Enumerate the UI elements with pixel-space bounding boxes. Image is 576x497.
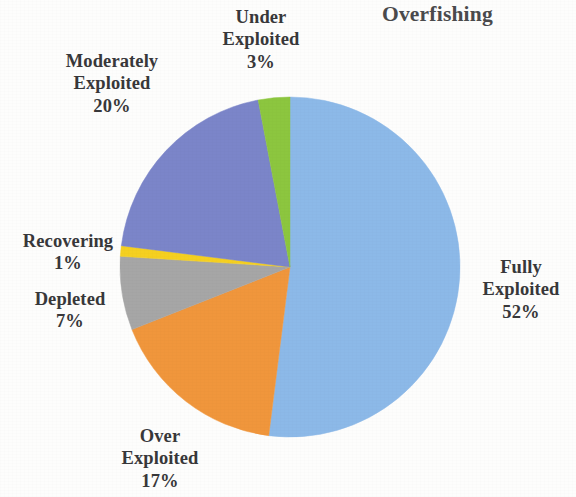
- pie-chart-svg: [118, 95, 462, 439]
- slice-label-line-2: Exploited: [90, 447, 230, 469]
- slice-label-line-1: Fully: [468, 256, 574, 278]
- slice-label-line-1: Under: [198, 6, 324, 28]
- slice-label-percent: 7%: [14, 310, 126, 332]
- slice-label-line-1: Moderately: [26, 50, 198, 72]
- slice-label-line-2: Exploited: [26, 72, 198, 94]
- slice-label-percent: 3%: [198, 51, 324, 73]
- slice-label-percent: 20%: [26, 95, 198, 117]
- slice-label-recovering: Recovering 1%: [2, 230, 134, 275]
- pie-slice-fully-exploited: [269, 97, 460, 437]
- slice-label-line-2: Exploited: [198, 28, 324, 50]
- slice-label-percent: 1%: [2, 252, 134, 274]
- slice-label-under-exploited: Under Exploited 3%: [198, 6, 324, 73]
- slice-label-depleted: Depleted 7%: [14, 288, 126, 333]
- slice-label-line-1: Recovering: [2, 230, 134, 252]
- slice-label-over-exploited: Over Exploited 17%: [90, 425, 230, 492]
- pie-chart: [118, 95, 462, 439]
- slice-label-percent: 17%: [90, 470, 230, 492]
- pie-slice-group: [120, 97, 460, 437]
- slice-label-percent: 52%: [468, 301, 574, 323]
- slice-label-line-1: Depleted: [14, 288, 126, 310]
- chart-title: Overfishing: [382, 2, 572, 27]
- slice-label-line-2: Exploited: [468, 278, 574, 300]
- slice-label-line-1: Over: [90, 425, 230, 447]
- slice-label-moderately-exploited: Moderately Exploited 20%: [26, 50, 198, 117]
- slice-label-fully-exploited: Fully Exploited 52%: [468, 256, 574, 323]
- chart-page: Overfishing Under Exploited 3% Moderatel…: [0, 0, 576, 497]
